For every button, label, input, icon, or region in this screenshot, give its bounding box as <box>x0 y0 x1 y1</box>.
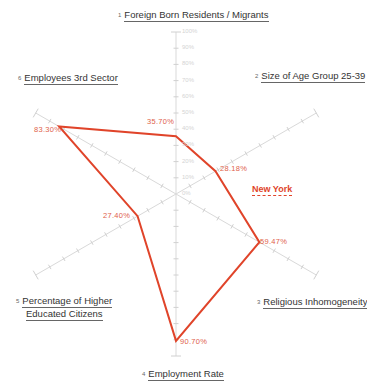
axis-label-6[interactable]: 6Employees 3rd Sector <box>18 71 118 85</box>
value-label-axis-6: 83.30% <box>34 125 61 134</box>
scale-tick-label: 70% <box>182 77 194 83</box>
scale-tick-label: 10% <box>182 174 194 180</box>
value-label-axis-3: 59.47% <box>260 237 287 246</box>
series-legend-new-york[interactable]: New York <box>252 184 292 196</box>
axis-label-5-line2[interactable]: Educated Citizens <box>26 307 103 321</box>
value-label-axis-2: 28.18% <box>220 164 247 173</box>
axis-label-2[interactable]: 2Size of Age Group 25-39 <box>255 69 365 83</box>
axis-tick <box>314 271 319 280</box>
axis-tick <box>314 109 319 118</box>
axis-tick <box>33 109 38 118</box>
value-label-axis-4: 90.70% <box>180 337 207 346</box>
value-label-axis-1: 35.70% <box>147 117 174 126</box>
scale-tick-label: 100% <box>182 28 197 34</box>
scale-tick-label: 20% <box>182 158 194 164</box>
axis-label-3[interactable]: 3Religious Inhomogeneity <box>257 295 367 309</box>
scale-tick-label: 50% <box>182 109 194 115</box>
value-label-axis-5: 27.40% <box>103 211 130 220</box>
scale-tick-label: 90% <box>182 44 194 50</box>
scale-tick-label: 80% <box>182 60 194 66</box>
axis-tick <box>33 271 38 280</box>
scale-tick-label: 0% <box>182 190 191 196</box>
scale-tick-label: 30% <box>182 141 194 147</box>
axis-label-1[interactable]: 1Foreign Born Residents / Migrants <box>118 8 269 22</box>
scale-tick-label: 60% <box>182 93 194 99</box>
scale-tick-label: 40% <box>182 125 194 131</box>
axis-label-4[interactable]: 4Employment Rate <box>142 367 224 381</box>
